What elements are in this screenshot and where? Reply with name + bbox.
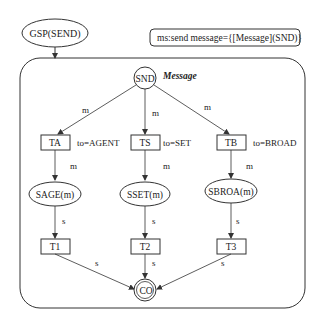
co-label: CO [139, 286, 152, 296]
arc-label-s: s [95, 258, 99, 268]
svg-text:T3: T3 [226, 242, 237, 252]
co-node[interactable]: CO [134, 279, 156, 301]
arc-label-m: m [246, 161, 253, 171]
arc-label-s: s [221, 258, 225, 268]
svg-text:T2: T2 [140, 242, 151, 252]
arc-label-s: s [62, 216, 66, 226]
arc-label-m: m [163, 161, 170, 171]
svg-text:SSET(m): SSET(m) [127, 190, 163, 201]
snd-label: SND [135, 74, 154, 84]
arc-label-m: m [82, 105, 89, 115]
arc-label-m: m [70, 161, 77, 171]
place-sset[interactable]: SSET(m) [120, 182, 170, 206]
diagram-canvas: GSP(SEND) ms:send message={[Message](SND… [0, 0, 320, 323]
arc-label-m: m [152, 108, 159, 118]
arc-label-s: s [236, 216, 240, 226]
container-label: Message [162, 71, 198, 81]
place-sage[interactable]: SAGE(m) [29, 182, 81, 206]
place-sbroa[interactable]: SBROA(m) [205, 179, 257, 203]
svg-text:TB: TB [225, 138, 237, 148]
arc-label-s: s [152, 216, 156, 226]
svg-text:SBROA(m): SBROA(m) [208, 187, 253, 198]
annotation-box: ms:send message={[Message](SND)} [150, 29, 302, 46]
transition-t3[interactable]: T3 [217, 239, 246, 254]
arc-label-m: m [204, 102, 211, 112]
gsp-send-node[interactable]: GSP(SEND) [22, 19, 88, 47]
arc-snd-tb [154, 85, 229, 134]
annotation-label: ms:send message={[Message](SND)} [157, 33, 302, 44]
arc-t3-co [157, 254, 231, 289]
svg-text:TA: TA [49, 138, 61, 148]
snd-node[interactable]: SND [134, 67, 156, 89]
svg-text:SAGE(m): SAGE(m) [36, 190, 75, 201]
guard-ta: to=AGENT [77, 138, 120, 148]
transition-t1[interactable]: T1 [41, 239, 70, 254]
transition-t2[interactable]: T2 [131, 239, 160, 254]
guard-ts: to=SET [163, 138, 192, 148]
arc-label-s: s [152, 258, 156, 268]
transition-ta[interactable]: TA [41, 135, 70, 150]
gsp-send-label: GSP(SEND) [29, 28, 80, 40]
svg-text:TS: TS [139, 138, 150, 148]
arc-snd-ta [58, 85, 136, 134]
guard-tb: to=BROAD [253, 138, 297, 148]
svg-text:T1: T1 [50, 242, 61, 252]
transition-tb[interactable]: TB [217, 135, 246, 150]
transition-ts[interactable]: TS [131, 135, 160, 150]
